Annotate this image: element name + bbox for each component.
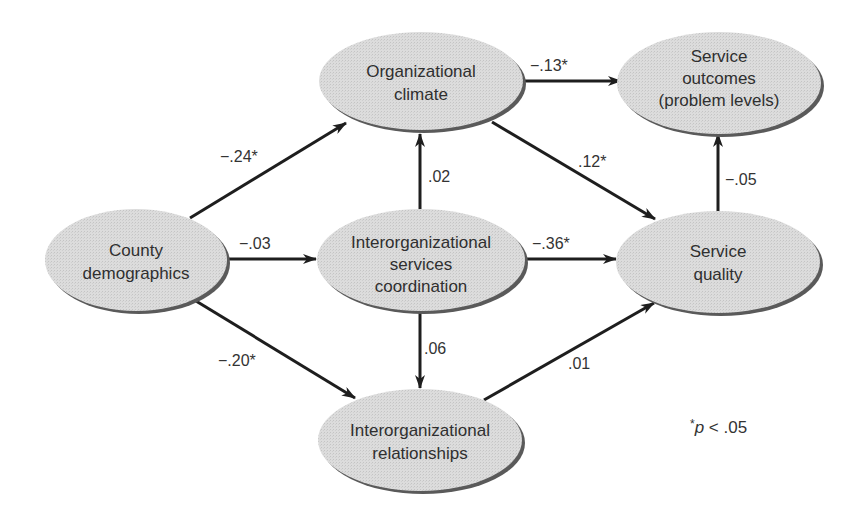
node-label: Interorganizational (351, 233, 491, 252)
node-label: demographics (83, 264, 190, 283)
coef-quality-outcomes: −.05 (725, 171, 757, 188)
node-label: Service (691, 47, 748, 66)
node-interorganizational-relationships: Interorganizational relationships (318, 389, 525, 494)
node-label: climate (394, 85, 448, 104)
node-label: relationships (372, 444, 467, 463)
node-service-quality: Service quality (616, 211, 823, 316)
node-label: services (390, 255, 452, 274)
node-organizational-climate: Organizational climate (319, 32, 526, 133)
coef-coordination-climate: .02 (428, 168, 450, 185)
edge-climate-to-quality (492, 122, 655, 219)
node-label: quality (693, 265, 743, 284)
coef-coordination-relationships: .06 (424, 340, 446, 357)
edge-relationships-to-quality (484, 303, 654, 400)
node-label: outcomes (682, 69, 756, 88)
node-service-outcomes: Service outcomes (problem levels) (617, 32, 824, 137)
coef-county-coordination: −.03 (239, 235, 271, 252)
node-label: coordination (375, 277, 468, 296)
note-threshold: < .05 (704, 418, 747, 437)
node-label: (problem levels) (659, 91, 780, 110)
edge-county-to-climate (190, 123, 346, 218)
node-label: Organizational (366, 62, 476, 81)
coef-coordination-quality: −.36* (532, 235, 570, 252)
node-label: Service (690, 242, 747, 261)
significance-note: *p < .05 (690, 417, 747, 437)
path-diagram: County demographics Organizational clima… (0, 0, 853, 520)
coef-county-climate: −.24* (220, 148, 258, 165)
note-p: p (694, 418, 704, 437)
coef-relationships-quality: .01 (568, 355, 590, 372)
node-label: Interorganizational (350, 421, 490, 440)
coef-climate-quality: .12* (578, 153, 606, 170)
edge-county-to-relationships (196, 301, 355, 398)
node-label: County (109, 241, 163, 260)
node-county-demographics: County demographics (45, 209, 230, 314)
coef-county-relationships: −.20* (218, 352, 256, 369)
coef-climate-outcomes: −.13* (530, 57, 568, 74)
node-interorganizational-services-coordination: Interorganizational services coordinatio… (317, 209, 528, 314)
